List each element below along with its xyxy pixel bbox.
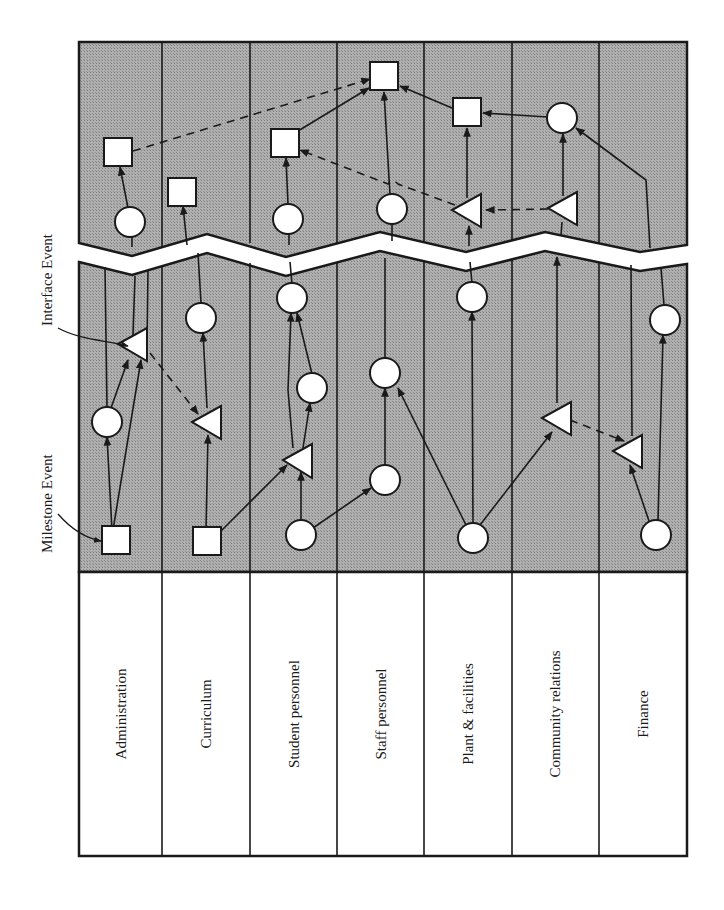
milestone-node-administration-end[interactable]	[104, 138, 132, 166]
activity-node-student-upper[interactable]	[273, 204, 303, 234]
callout-milestone-event-label: Milestone Event	[39, 453, 55, 553]
milestone-node-administration-start[interactable]	[102, 526, 130, 554]
activity-node-student-start[interactable]	[286, 520, 316, 550]
activity-node-plant-2[interactable]	[457, 282, 487, 312]
lane-label-community-relations: Community relations	[547, 650, 563, 777]
lane-label-curriculum: Curriculum	[198, 679, 214, 748]
activity-node-staff-upper[interactable]	[377, 194, 407, 224]
milestone-node-curriculum-start[interactable]	[193, 527, 221, 555]
activity-node-finance-2[interactable]	[650, 305, 680, 335]
lane-label-finance: Finance	[635, 690, 651, 738]
activity-node-finance-start[interactable]	[641, 520, 671, 550]
milestone-node-plant-end[interactable]	[453, 98, 481, 126]
lane-label-plant-facilities: Plant & facilities	[460, 663, 476, 765]
lane-label-student-personnel: Student personnel	[286, 660, 302, 768]
shaded-area-lower	[79, 251, 687, 572]
lane-label-administration: Administration	[113, 668, 129, 759]
activity-node-student-2[interactable]	[297, 373, 327, 403]
activity-node-staff-2[interactable]	[370, 358, 400, 388]
milestone-node-curriculum-end[interactable]	[168, 178, 196, 206]
activity-node-curriculum-1[interactable]	[186, 303, 216, 333]
activity-node-community-upper[interactable]	[547, 103, 577, 133]
activity-node-staff-1[interactable]	[370, 465, 400, 495]
milestone-node-staff-end[interactable]	[370, 62, 398, 90]
callout-interface-event-label: Interface Event	[39, 233, 55, 326]
timeline-network-diagram: Interface Event Milestone Event Administ…	[0, 0, 724, 910]
activity-node-administration-upper[interactable]	[115, 207, 145, 237]
activity-node-administration-1[interactable]	[92, 407, 122, 437]
activity-node-plant-start[interactable]	[458, 523, 488, 553]
lane-label-staff-personnel: Staff personnel	[373, 669, 389, 760]
milestone-node-student-end[interactable]	[271, 129, 299, 157]
activity-node-student-3[interactable]	[277, 283, 307, 313]
